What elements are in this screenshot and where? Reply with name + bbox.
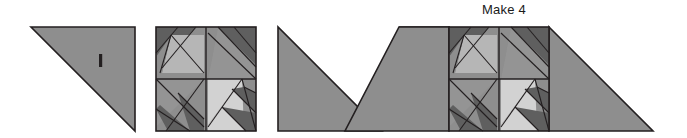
triangle-shape [31, 27, 135, 131]
assembled-left-wing [345, 27, 449, 131]
quilt-assembly-diagram: Make 4 [0, 0, 687, 138]
grain-line-mark [99, 54, 102, 67]
assembled-right-wing [549, 27, 653, 131]
assembled-center-block [449, 27, 549, 131]
assembled-unit [345, 27, 653, 131]
pinwheel-block-standalone [156, 27, 256, 131]
diagram-canvas [0, 0, 687, 138]
make-quantity-label: Make 4 [482, 2, 526, 17]
setting-triangle-left [31, 27, 135, 131]
